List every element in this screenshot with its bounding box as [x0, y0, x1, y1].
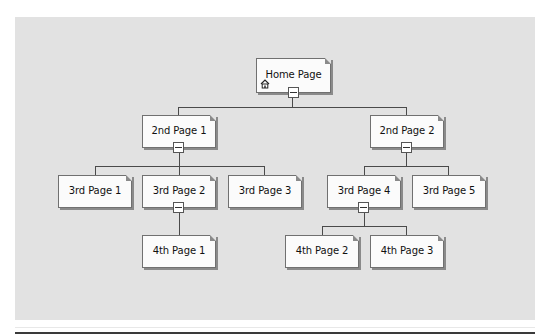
page-fold-icon [438, 115, 444, 121]
connector [448, 166, 449, 175]
collapse-toggle-button[interactable] [173, 202, 184, 213]
page-fold-icon [438, 235, 444, 241]
collapse-toggle-button[interactable] [173, 142, 184, 153]
node-3rd-page-4[interactable]: 3rd Page 4 [327, 175, 401, 208]
home-icon [260, 79, 270, 89]
node-home-page[interactable]: Home Page [256, 58, 331, 93]
node-label: 2nd Page 1 [152, 125, 207, 136]
page-fold-icon [353, 235, 359, 241]
node-label: 3rd Page 4 [338, 185, 391, 196]
node-label: 3rd Page 5 [423, 185, 476, 196]
page-fold-icon [325, 58, 331, 64]
node-4th-page-3[interactable]: 4th Page 3 [370, 235, 444, 268]
node-3rd-page-5[interactable]: 3rd Page 5 [412, 175, 486, 208]
page-fold-icon [210, 235, 216, 241]
node-label: 3rd Page 3 [239, 185, 292, 196]
node-label: 4th Page 1 [153, 245, 206, 256]
divider [15, 332, 535, 334]
connector [406, 107, 407, 115]
connector [95, 166, 96, 175]
connector [364, 166, 449, 167]
page-fold-icon [395, 175, 401, 181]
connector [95, 166, 265, 167]
connector [322, 226, 323, 235]
collapse-toggle-button[interactable] [288, 87, 299, 98]
node-label: 3rd Page 2 [153, 185, 206, 196]
node-2nd-page-1[interactable]: 2nd Page 1 [142, 115, 216, 148]
page-fold-icon [210, 115, 216, 121]
page-fold-icon [296, 175, 302, 181]
node-3rd-page-2[interactable]: 3rd Page 2 [142, 175, 216, 208]
connector [364, 166, 365, 175]
connector [178, 107, 179, 115]
node-label: 3rd Page 1 [69, 185, 122, 196]
node-label: 2nd Page 2 [380, 125, 435, 136]
connector [178, 107, 407, 108]
connector [264, 166, 265, 175]
collapse-toggle-button[interactable] [358, 202, 369, 213]
connector [406, 226, 407, 235]
connector [322, 226, 407, 227]
collapse-toggle-button[interactable] [401, 142, 412, 153]
node-3rd-page-3[interactable]: 3rd Page 3 [228, 175, 302, 208]
connector [179, 166, 180, 175]
page-fold-icon [480, 175, 486, 181]
node-label: 4th Page 2 [296, 245, 349, 256]
page-fold-icon [210, 175, 216, 181]
node-4th-page-1[interactable]: 4th Page 1 [142, 235, 216, 268]
node-label: 4th Page 3 [381, 245, 434, 256]
node-2nd-page-2[interactable]: 2nd Page 2 [370, 115, 444, 148]
node-4th-page-2[interactable]: 4th Page 2 [285, 235, 359, 268]
page-fold-icon [126, 175, 132, 181]
node-3rd-page-1[interactable]: 3rd Page 1 [58, 175, 132, 208]
node-label: Home Page [265, 69, 321, 80]
divider-light [15, 327, 535, 328]
